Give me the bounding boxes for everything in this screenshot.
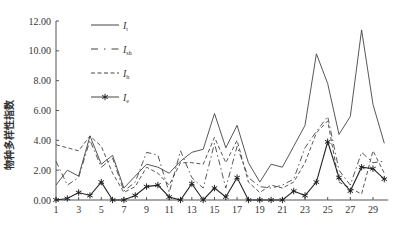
x-tick-label: 7	[121, 204, 126, 215]
x-tick-label: 29	[368, 204, 378, 215]
x-tick-label: 21	[277, 204, 287, 215]
legend: ItIshIhIe	[91, 20, 132, 104]
svg-text:Ih: Ih	[122, 68, 129, 80]
series-line-i-sh	[56, 117, 384, 193]
series-group	[53, 30, 387, 203]
x-tick-label: 3	[76, 204, 81, 215]
x-tick-label: 9	[144, 204, 149, 215]
x-tick-label: 11	[164, 204, 174, 215]
x-tick-label: 15	[209, 204, 219, 215]
svg-text:Ish: Ish	[122, 44, 132, 56]
x-tick-label: 5	[99, 204, 104, 215]
x-tick-label: 13	[187, 204, 197, 215]
x-tick-label: 17	[232, 204, 242, 215]
y-tick-label: 12.00	[29, 16, 52, 27]
y-tick-label: 4.00	[34, 135, 52, 146]
legend-item-i-h: Ih	[91, 68, 129, 80]
y-tick-label: 6.00	[34, 105, 52, 116]
line-chart: 0.002.004.006.008.0010.0012.001357911131…	[0, 0, 404, 228]
y-tick-label: 2.00	[34, 165, 52, 176]
y-tick-label: 8.00	[34, 75, 52, 86]
x-tick-label: 1	[54, 204, 59, 215]
x-tick-label: 27	[345, 204, 355, 215]
legend-item-i-e: Ie	[91, 92, 129, 104]
y-axis-label: 物种多样性指数	[3, 99, 15, 170]
svg-text:It: It	[122, 20, 128, 32]
y-tick-label: 10.00	[29, 45, 52, 56]
x-tick-label: 23	[300, 204, 310, 215]
legend-item-i-sh: Ish	[91, 44, 132, 56]
series-line-i-e	[56, 142, 384, 200]
legend-item-i-t: It	[91, 20, 128, 32]
svg-text:Ie: Ie	[122, 92, 129, 104]
asterisk-marker-icon	[325, 139, 331, 145]
x-tick-label: 25	[323, 204, 333, 215]
y-tick-label: 0.00	[34, 195, 52, 206]
x-tick-label: 19	[255, 204, 265, 215]
